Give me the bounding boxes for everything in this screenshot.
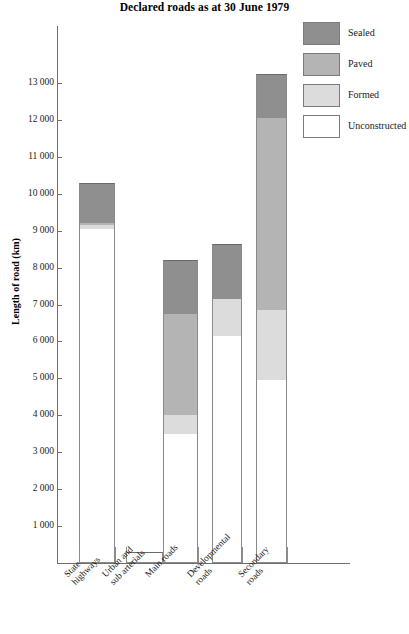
- chart-title: Declared roads as at 30 June 1979: [0, 1, 409, 13]
- legend-item-paved[interactable]: Paved: [303, 53, 409, 84]
- bar-state-highways[interactable]: [79, 0, 115, 634]
- y-axis-tick-labels: 13 00012 00011 00010 0009 0008 0007 0006…: [0, 0, 54, 634]
- y-axis-tick-label: 10 000: [4, 188, 54, 198]
- y-axis-tick-label: 13 000: [4, 77, 54, 87]
- y-axis-tick-mark: [58, 526, 62, 527]
- y-axis-tick-label: 8 000: [4, 262, 54, 272]
- legend-swatch-formed: [303, 84, 340, 107]
- y-axis-tick-label: 6 000: [4, 335, 54, 345]
- y-axis-tick-label: 7 000: [4, 299, 54, 309]
- legend-label: Paved: [348, 58, 372, 69]
- chart-legend: SealedPavedFormedUnconstructed: [303, 22, 409, 146]
- y-axis-tick-mark: [58, 415, 62, 416]
- bar-segment-sealed[interactable]: [212, 244, 242, 299]
- y-axis-tick-label: 2 000: [4, 483, 54, 493]
- y-axis-tick-mark: [58, 489, 62, 490]
- y-axis-tick-label: 12 000: [4, 114, 54, 124]
- y-axis-tick-mark: [58, 378, 62, 379]
- y-axis-line: [57, 26, 58, 564]
- bar-main-roads[interactable]: [163, 0, 198, 634]
- legend-label: Formed: [348, 89, 379, 100]
- bar-segment-formed[interactable]: [163, 415, 198, 433]
- y-axis-tick-label: 3 000: [4, 446, 54, 456]
- y-axis-tick-label: 9 000: [4, 225, 54, 235]
- legend-item-unconstructed[interactable]: Unconstructed: [303, 115, 409, 146]
- bar-segment-formed[interactable]: [79, 225, 115, 229]
- y-axis-tick-mark: [58, 305, 62, 306]
- y-axis-tick-mark: [58, 194, 62, 195]
- bar-segment-unconstructed[interactable]: [212, 336, 242, 563]
- y-axis-tick-label: 4 000: [4, 409, 54, 419]
- chart-container: Declared roads as at 30 June 1979 Length…: [0, 0, 409, 634]
- y-axis-tick-label: 5 000: [4, 372, 54, 382]
- bar-segment-unconstructed[interactable]: [79, 229, 115, 563]
- bar-segment-formed[interactable]: [256, 310, 287, 380]
- y-axis-tick-mark: [58, 120, 62, 121]
- y-axis-tick-label: 11 000: [4, 151, 54, 161]
- bar-segment-paved[interactable]: [256, 118, 287, 310]
- legend-swatch-sealed: [303, 22, 340, 45]
- bar-segment-paved[interactable]: [79, 223, 115, 225]
- bar-segment-paved[interactable]: [163, 314, 198, 416]
- bar-segment-formed[interactable]: [212, 299, 242, 336]
- y-axis-tick-mark: [58, 83, 62, 84]
- y-axis-tick-label: 1 000: [4, 520, 54, 530]
- legend-swatch-paved: [303, 53, 340, 76]
- y-axis-tick-mark: [58, 341, 62, 342]
- bar-segment-unconstructed[interactable]: [163, 434, 198, 563]
- y-axis-tick-mark: [58, 231, 62, 232]
- category-separator: [242, 547, 243, 563]
- legend-swatch-unconstructed: [303, 115, 340, 138]
- legend-item-formed[interactable]: Formed: [303, 84, 409, 115]
- bar-segment-sealed[interactable]: [79, 183, 115, 224]
- bar-segment-sealed[interactable]: [256, 74, 287, 118]
- y-axis-tick-mark: [58, 268, 62, 269]
- bar-secondary-roads[interactable]: [256, 0, 287, 634]
- bar-segment-unconstructed[interactable]: [256, 380, 287, 563]
- legend-item-sealed[interactable]: Sealed: [303, 22, 409, 53]
- legend-label: Sealed: [348, 27, 375, 38]
- y-axis-tick-mark: [58, 157, 62, 158]
- y-axis-tick-mark: [58, 452, 62, 453]
- bar-segment-sealed[interactable]: [163, 260, 198, 314]
- legend-label: Unconstructed: [348, 120, 406, 131]
- category-separator: [287, 547, 288, 563]
